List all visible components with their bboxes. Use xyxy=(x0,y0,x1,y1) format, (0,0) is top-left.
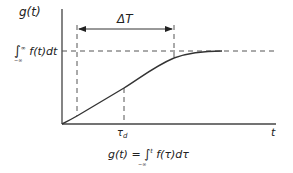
formula-upper-limit: t xyxy=(150,147,152,154)
integrand: f(t)dt xyxy=(29,45,57,58)
formula-lower-limit: −∞ xyxy=(138,162,146,167)
response-curve xyxy=(62,51,222,124)
integral-upper-limit: ∞ xyxy=(21,44,26,51)
tau-d-label: τd xyxy=(117,128,127,138)
formula-lhs: g(t) = xyxy=(108,148,144,161)
tau-subscript: d xyxy=(123,132,127,140)
y-axis-label: g(t) xyxy=(19,6,41,18)
integral-sign: ∫ xyxy=(14,43,21,58)
delta-t-label: ΔT xyxy=(117,13,133,25)
integral-lower-limit: −∞ xyxy=(14,58,22,63)
formula: g(t) = ∫t f(τ)dτ −∞ xyxy=(108,148,189,160)
formula-integrand: f(τ)dτ xyxy=(153,148,189,161)
x-axis-label: t xyxy=(271,127,275,138)
asymptote-label: ∫∞ f(t)dt −∞ xyxy=(14,44,57,57)
